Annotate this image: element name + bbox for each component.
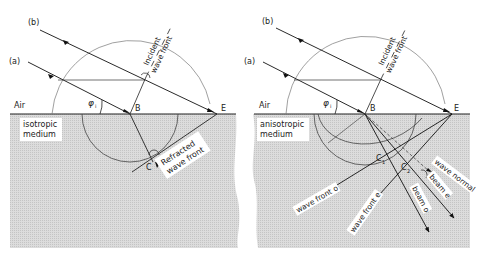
ray-a-arrow-icon-2 [123, 109, 130, 113]
angle-arc-right [335, 100, 337, 114]
point-E-label: E [221, 104, 226, 113]
point-C-label: C [146, 163, 152, 172]
angle-phi-label: φ [88, 98, 94, 108]
ray-a-label: (a) [9, 57, 20, 66]
point-E-label-right: E [454, 104, 459, 113]
isotropic-label-line1: isotropic [23, 120, 57, 129]
point-B-label: B [135, 104, 141, 113]
isotropic-label-line2: medium [23, 130, 56, 139]
point-C2-subscript: 2 [407, 168, 410, 174]
anisotropic-label-line2: medium [260, 130, 293, 139]
ray-b-arrow-icon [63, 40, 69, 45]
point-B-label-right: B [370, 104, 376, 113]
anisotropic-label-line1: anisotropic [260, 120, 304, 129]
ray-a [28, 62, 130, 114]
ray-a-arrow-icon-right-2 [357, 109, 364, 113]
incident-wavefront-label: Incident wave front [140, 30, 174, 74]
point-C1-subscript: 1 [382, 159, 385, 165]
air-label: Air [14, 101, 26, 110]
angle-phi-label-right: φ [323, 98, 329, 108]
angle-phi-subscript-right: i [330, 103, 331, 109]
ray-b-label: (b) [28, 18, 39, 27]
right-panel-anisotropic: (b) (a) Air anisotropic medium φ i B E C… [244, 17, 478, 248]
angle-phi-subscript: i [95, 103, 96, 109]
ray-b-arrow-icon-right-2 [443, 108, 450, 112]
ray-b-arrow-icon-right [298, 38, 304, 43]
refraction-diagram: Refracted wave front (b) (a) Air isotrop… [0, 0, 490, 259]
left-panel-isotropic: Refracted wave front (b) (a) Air isotrop… [9, 18, 240, 248]
ray-a-right [263, 62, 365, 114]
ray-a-label-right: (a) [244, 57, 255, 66]
ray-b-label-right: (b) [262, 17, 273, 26]
angle-arc [100, 100, 102, 114]
ray-b-arrow-icon-2 [207, 108, 214, 112]
incident-wavefront-label-right: Incident wave front [375, 30, 409, 74]
huygens-arc-air-right [286, 36, 445, 114]
huygens-arc-air [52, 41, 210, 114]
air-label-right: Air [259, 101, 271, 110]
